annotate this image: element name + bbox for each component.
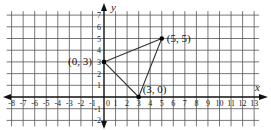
x-tick-label: 10 xyxy=(216,99,224,108)
vertex-label: (5, 5) xyxy=(167,32,191,45)
y-tick-label: 3 xyxy=(97,58,101,67)
y-tick-label: -2 xyxy=(94,116,101,125)
x-tick-label: -7 xyxy=(20,99,27,108)
x-tick-label: 0 xyxy=(106,99,110,108)
coordinate-plane: xy-8-7-6-5-4-3-2-10123456789101112137654… xyxy=(0,0,271,130)
x-axis-label: x xyxy=(254,81,260,93)
x-tick-label: 9 xyxy=(206,99,210,108)
vertex-point xyxy=(159,36,164,41)
y-tick-label: 7 xyxy=(97,11,101,20)
x-tick-label: 1 xyxy=(114,99,118,108)
y-tick-label: 5 xyxy=(97,35,101,44)
x-tick-label: 6 xyxy=(171,99,175,108)
x-axis-right-arrow-icon xyxy=(259,94,268,100)
y-tick-label: 6 xyxy=(97,23,101,32)
y-axis-label: y xyxy=(110,1,116,13)
x-tick-label: -8 xyxy=(8,99,15,108)
x-tick-label: -6 xyxy=(31,99,38,108)
y-tick-label: 2 xyxy=(97,70,101,79)
y-axis-down-arrow-icon xyxy=(101,121,107,129)
y-axis-up-arrow-icon xyxy=(101,3,107,11)
x-tick-label: 3 xyxy=(137,99,141,108)
vertex-label: (3, 0) xyxy=(143,83,167,96)
vertex-point xyxy=(136,95,141,100)
x-tick-label: -4 xyxy=(54,99,61,108)
x-tick-label: 13 xyxy=(250,99,258,108)
x-tick-label: -3 xyxy=(66,99,73,108)
y-tick-label: -1 xyxy=(94,105,101,114)
vertex-point xyxy=(102,60,107,65)
x-tick-label: 7 xyxy=(183,99,187,108)
x-tick-label: 11 xyxy=(227,99,235,108)
x-tick-label: 8 xyxy=(194,99,198,108)
y-tick-label: 4 xyxy=(97,46,101,55)
x-tick-label: 4 xyxy=(148,99,152,108)
x-tick-label: 5 xyxy=(160,99,164,108)
x-tick-label: -2 xyxy=(78,99,85,108)
x-tick-label: 12 xyxy=(239,99,247,108)
x-tick-label: -5 xyxy=(43,99,50,108)
vertex-label: (0, 3) xyxy=(68,55,92,68)
x-tick-label: 2 xyxy=(125,99,129,108)
y-tick-label: 1 xyxy=(97,81,101,90)
